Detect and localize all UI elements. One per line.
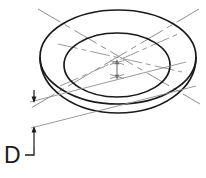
center-depth-arrow	[110, 60, 124, 80]
technical-drawing-canvas: D	[0, 0, 206, 178]
centerline-bore-cross-2	[60, 34, 178, 86]
isometric-counterbore-drawing: D	[0, 0, 206, 178]
depth-label-leader	[25, 146, 34, 155]
depth-arrow-top-head	[32, 97, 37, 104]
depth-label-text: D	[4, 142, 21, 168]
